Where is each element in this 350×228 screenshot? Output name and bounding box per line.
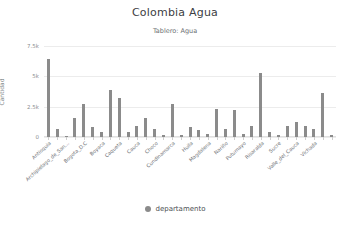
legend-swatch-departamento <box>145 206 151 212</box>
x-axis-tick-label: Cauca <box>125 140 141 155</box>
y-axis-tick-label: 2.5k <box>27 104 39 110</box>
bar[interactable] <box>259 73 262 137</box>
bar[interactable] <box>304 126 307 137</box>
bar[interactable] <box>224 129 227 137</box>
x-axis-tick-label: Vichada <box>299 140 318 158</box>
bar[interactable] <box>109 90 112 137</box>
bar[interactable] <box>197 130 200 137</box>
bar[interactable] <box>135 126 138 137</box>
chart-subtitle: Tablero: Agua <box>0 27 350 35</box>
bar[interactable] <box>295 122 298 137</box>
bar[interactable] <box>171 104 174 137</box>
y-axis-ticks: 02.5k5k7.5k <box>0 46 42 137</box>
legend-label-departamento: departamento <box>156 205 206 213</box>
bar[interactable] <box>82 104 85 137</box>
bar[interactable] <box>73 118 76 137</box>
bar[interactable] <box>56 129 59 137</box>
plot-area <box>44 46 336 137</box>
x-axis-tick-label: Caqueta <box>104 140 124 159</box>
x-axis-tick-label: Huila <box>181 140 195 153</box>
bar[interactable] <box>153 129 156 137</box>
y-axis-tick-label: 5k <box>32 73 39 79</box>
bar[interactable] <box>118 98 121 137</box>
x-axis-labels: AntioquiaArchipielago_de_San...Bogota_D.… <box>0 137 350 187</box>
x-axis-tick-label: Risaralda <box>243 140 264 160</box>
bar-series-departamento <box>44 46 336 137</box>
bar[interactable] <box>286 126 289 137</box>
chart-title: Colombia Agua <box>0 6 350 19</box>
bar[interactable] <box>215 109 218 137</box>
bar[interactable] <box>321 93 324 137</box>
y-axis-tick-label: 7.5k <box>27 43 39 49</box>
bar[interactable] <box>144 118 147 137</box>
bar[interactable] <box>189 127 192 137</box>
x-axis-tick-label: Sucre <box>268 140 283 154</box>
bar[interactable] <box>312 129 315 137</box>
bar[interactable] <box>47 59 50 137</box>
bar[interactable] <box>250 126 253 137</box>
bar[interactable] <box>91 127 94 137</box>
legend: departamento <box>0 205 350 213</box>
bar[interactable] <box>233 110 236 137</box>
chart-container: Colombia Agua Tablero: Agua Cantidad 02.… <box>0 0 350 228</box>
